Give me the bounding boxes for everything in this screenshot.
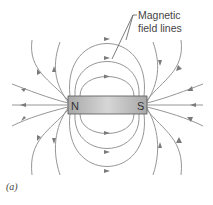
arrow-icon [104, 37, 110, 41]
field-lines-bottom-closed [69, 114, 144, 173]
arrow-icon [20, 103, 26, 107]
field-lines-annotation: Magnetic field lines [112, 9, 182, 59]
annotation-line-2: field lines [138, 22, 182, 34]
arrow-icon [104, 56, 110, 60]
arrow-icon [104, 75, 110, 79]
arrow-icon [104, 169, 110, 173]
arrow-icon [104, 150, 110, 154]
south-pole-label: S [137, 100, 144, 112]
bar-magnet-field-diagram: N S Magnetic field lines (a) [0, 0, 213, 205]
field-lines-top-closed [69, 37, 144, 96]
figure-caption: (a) [6, 181, 18, 193]
north-pole-label: N [71, 100, 79, 112]
field-lines-right-open [147, 40, 203, 175]
arrow-icon [190, 103, 196, 107]
arrow-icon [104, 131, 110, 135]
field-lines-left-open [12, 40, 68, 175]
arrow-icon [187, 86, 193, 91]
arrow-icon [176, 137, 182, 143]
annotation-line-1: Magnetic [138, 9, 181, 21]
arrow-icon [158, 142, 162, 148]
arrow-icon [21, 88, 26, 92]
arrow-icon [158, 60, 162, 66]
bar-magnet: N S [68, 96, 147, 114]
